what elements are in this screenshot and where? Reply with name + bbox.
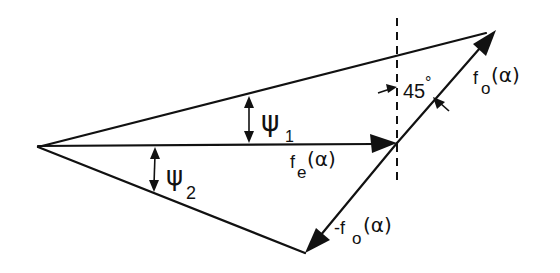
- psi1-label: ψ 1: [261, 105, 294, 145]
- svg-text:°: °: [425, 74, 431, 91]
- svg-text:(α): (α): [491, 63, 520, 87]
- svg-text:45: 45: [403, 80, 425, 102]
- svg-text:f: f: [290, 152, 296, 172]
- psi1-angle-arrow: [244, 96, 254, 143]
- psi2-label: ψ 2: [166, 161, 196, 203]
- angle-45-label: 45 °: [403, 74, 431, 102]
- svg-text:1: 1: [285, 128, 294, 145]
- svg-text:f: f: [473, 68, 479, 88]
- svg-text:(α): (α): [363, 213, 392, 237]
- vector-diagram: ψ 1 ψ 2 45 ° f e (α) f o (α) -f o (α): [0, 0, 560, 273]
- svg-text:(α): (α): [307, 147, 336, 171]
- svg-text:e: e: [297, 163, 306, 182]
- svg-text:ψ: ψ: [166, 161, 183, 191]
- svg-text:ψ: ψ: [261, 105, 279, 138]
- minus-fo-label: -f o (α): [334, 213, 392, 248]
- svg-text:o: o: [481, 79, 490, 98]
- svg-text:o: o: [352, 229, 361, 248]
- psi2-angle-arrow: [149, 147, 160, 192]
- angle-45-arrow-left: [378, 84, 397, 93]
- fo-label: f o (α): [473, 63, 520, 98]
- svg-text:-f: -f: [334, 218, 346, 238]
- fe-arrowhead-icon: [370, 134, 397, 153]
- angle-45-arrow-right: [433, 97, 449, 111]
- svg-text:2: 2: [186, 183, 196, 203]
- fe-vector: [38, 134, 397, 153]
- fe-label: f e (α): [290, 147, 336, 182]
- minus-fo-arrowhead-icon: [305, 228, 330, 253]
